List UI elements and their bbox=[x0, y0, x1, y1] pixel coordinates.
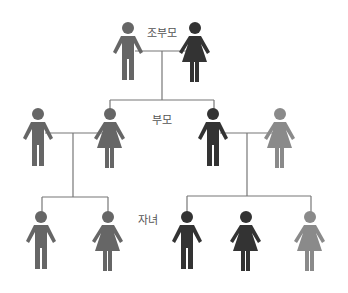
mother-figure-icon bbox=[94, 108, 125, 168]
child-2-figure-icon bbox=[92, 211, 123, 271]
grandparents-label: 조부모 bbox=[147, 24, 177, 40]
uncle-figure-icon bbox=[23, 108, 53, 166]
children-label: 자녀 bbox=[138, 211, 158, 227]
child-1-figure-icon bbox=[26, 211, 56, 269]
child-5-figure-icon bbox=[294, 211, 325, 271]
father-figure-icon bbox=[198, 108, 228, 166]
child-3-figure-icon bbox=[172, 211, 202, 269]
aunt-figure-icon bbox=[264, 108, 295, 168]
child-4-figure-icon bbox=[230, 211, 261, 271]
grandfather-figure-icon bbox=[113, 22, 143, 80]
grandmother-figure-icon bbox=[179, 22, 210, 82]
parents-label: 부모 bbox=[152, 111, 172, 127]
family-tree-diagram bbox=[0, 0, 348, 293]
